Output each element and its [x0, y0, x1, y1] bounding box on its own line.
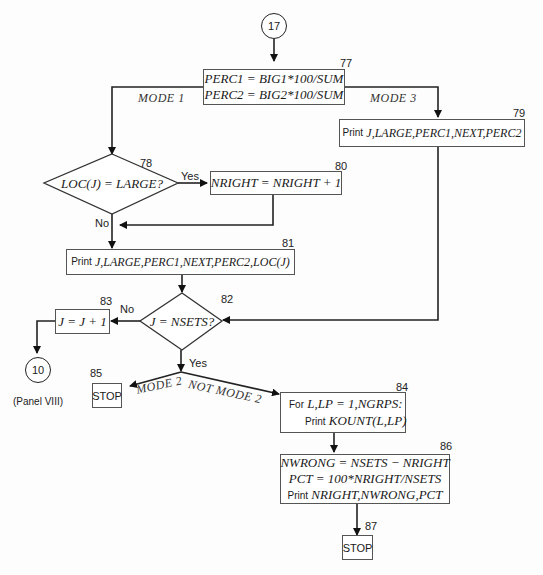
connector-10-label: 10	[32, 364, 44, 376]
process-box-77: PERC1 = BIG1*100/SUM PERC2 = BIG2*100/SU…	[203, 69, 345, 105]
step-79-number: 79	[513, 107, 525, 119]
step-85-number: 85	[90, 367, 102, 379]
box-81-print: Print	[71, 254, 92, 270]
box-77-line-1: PERC1 = BIG1*100/SUM	[205, 71, 344, 87]
edge-label-yes-82: Yes	[189, 357, 207, 369]
decision-78-text: LOC(J) = LARGE?	[61, 176, 163, 192]
step-82-number: 82	[221, 293, 233, 305]
process-box-79: Print J,LARGE,PERC1,NEXT,PERC2	[339, 119, 525, 147]
edge-label-no-78: No	[95, 217, 109, 229]
connector-17-label: 17	[268, 20, 280, 32]
box-86-line-3: Print NRIGHT,NWRONG,PCT	[287, 487, 442, 504]
connector-10: 10	[25, 357, 51, 383]
box-81-text: J,LARGE,PERC1,NEXT,PERC2,LOC(J)	[95, 254, 290, 270]
edge-label-yes-78: Yes	[181, 170, 199, 182]
process-box-84: For L,LP = 1,NGRPS: Print KOUNT(L,LP)	[280, 392, 406, 433]
step-78-number: 78	[140, 157, 152, 169]
step-83-number: 83	[100, 295, 112, 307]
flowchart: 17 77 PERC1 = BIG1*100/SUM PERC2 = BIG2*…	[0, 0, 543, 575]
edge-label-mode3: MODE 3	[370, 91, 417, 106]
box-79-print: Print	[343, 125, 364, 141]
step-81-number: 81	[282, 237, 294, 249]
box-86-line-2: PCT = 100*NRIGHT/NSETS	[289, 471, 441, 487]
process-box-81: Print J,LARGE,PERC1,NEXT,PERC2,LOC(J)	[66, 249, 295, 275]
edge-label-no-82: No	[120, 303, 134, 315]
step-86-number: 86	[440, 440, 452, 452]
panel-reference: (Panel VIII)	[13, 396, 63, 407]
stop-85-text: STOP	[92, 388, 122, 404]
step-77-number: 77	[340, 57, 352, 69]
edge-label-mode1: MODE 1	[138, 91, 185, 106]
stop-box-85: STOP	[92, 383, 122, 408]
stop-box-87: STOP	[342, 535, 373, 560]
step-87-number: 87	[365, 520, 377, 532]
process-box-80: NRIGHT = NRIGHT + 1	[210, 171, 342, 195]
process-box-86: NWRONG = NSETS − NRIGHT PCT = 100*NRIGHT…	[280, 454, 450, 504]
box-83-text: J = J + 1	[58, 314, 107, 330]
box-80-text: NRIGHT = NRIGHT + 1	[211, 175, 341, 191]
connector-17: 17	[261, 13, 287, 39]
box-86-line-1: NWRONG = NSETS − NRIGHT	[280, 455, 449, 471]
box-79-text: J,LARGE,PERC1,NEXT,PERC2	[366, 125, 521, 141]
decision-82-text: J = NSETS?	[150, 314, 214, 330]
box-84-line-1: For L,LP = 1,NGRPS:	[289, 396, 402, 413]
process-box-83: J = J + 1	[55, 309, 110, 334]
box-77-line-2: PERC2 = BIG2*100/SUM	[205, 87, 344, 103]
box-84-line-2: Print KOUNT(L,LP)	[289, 413, 406, 430]
stop-87-text: STOP	[343, 540, 373, 556]
